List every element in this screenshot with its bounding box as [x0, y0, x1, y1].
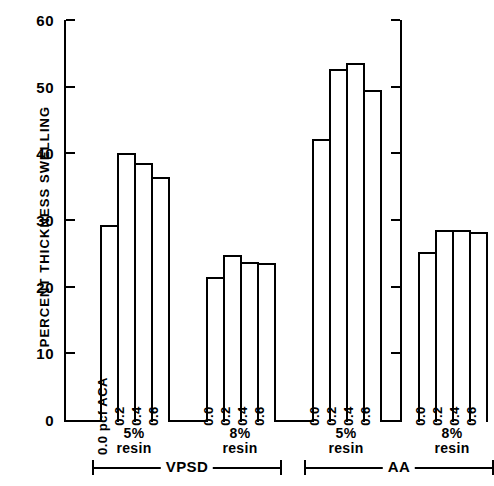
treatment-brace-vpsd: VPSD — [92, 460, 282, 475]
bar-value-label: 0.4 — [235, 406, 250, 426]
bar-value-label: 0.2 — [218, 406, 233, 426]
y-tick-label-30: 30 — [20, 212, 54, 229]
bar-value-label: 0.4 — [341, 406, 356, 426]
y-tick-label-40: 40 — [20, 145, 54, 162]
bar-value-label: 0.4 — [447, 406, 462, 426]
y-tick-mark-left-10 — [66, 352, 75, 354]
y-tick-mark-right-30 — [391, 219, 400, 221]
bar-aa-5pct-0.6: 0.6 — [363, 90, 382, 422]
y-tick-mark-left-20 — [66, 286, 75, 288]
group-label-resin-word: resin — [117, 441, 152, 456]
bar-value-label: 0.2 — [112, 406, 127, 426]
treatment-label: VPSD — [161, 459, 213, 475]
y-tick-mark-right-20 — [391, 286, 400, 288]
bar-value-label: 0.6 — [464, 406, 479, 426]
bar-value-label: 0.6 — [358, 406, 373, 426]
brace-cap-left — [92, 460, 94, 475]
brace-cap-right — [280, 460, 282, 475]
group-label-resin-pct: 5% — [117, 426, 152, 441]
group-label-aa-8pct: 8%resin — [435, 426, 470, 455]
y-tick-label-60: 60 — [20, 12, 54, 29]
group-label-aa-5pct: 5%resin — [329, 426, 364, 455]
y-axis-tick-labels: 0102030405060 — [14, 0, 54, 486]
bar-aa-8pct-0.6: 0.6 — [469, 232, 488, 422]
y-tick-mark-right-60 — [391, 19, 400, 21]
y-tick-mark-right-40 — [391, 152, 400, 154]
bar-value-label: 0.6 — [146, 406, 161, 426]
y-tick-mark-right-50 — [391, 86, 400, 88]
bar-value-label: 0.0 — [201, 406, 216, 426]
group-label-resin-word: resin — [223, 441, 258, 456]
right-axis-line — [400, 20, 402, 422]
brace-cap-left — [304, 460, 306, 475]
y-tick-label-20: 20 — [20, 278, 54, 295]
treatment-label: AA — [383, 459, 415, 475]
y-tick-mark-left-40 — [66, 152, 75, 154]
bar-value-label: 0.6 — [252, 406, 267, 426]
bar-vpsd-5pct-0.6: 0.6 — [151, 177, 170, 422]
y-tick-mark-right-10 — [391, 352, 400, 354]
y-tick-mark-left-30 — [66, 219, 75, 221]
group-label-resin-pct: 8% — [435, 426, 470, 441]
bar-value-label: 0.0 — [413, 406, 428, 426]
bar-vpsd-8pct-0.6: 0.6 — [257, 263, 276, 422]
bar-value-label: 0.0 — [307, 406, 322, 426]
bar-value-label: 0.2 — [430, 406, 445, 426]
group-label-vpsd-5pct: 5%resin — [117, 426, 152, 455]
bar-value-label: 0.0 pcf ACA — [95, 377, 110, 455]
y-tick-label-10: 10 — [20, 345, 54, 362]
y-axis-line — [64, 20, 66, 422]
group-label-resin-pct: 8% — [223, 426, 258, 441]
bar-value-label: 0.2 — [324, 406, 339, 426]
y-tick-label-50: 50 — [20, 78, 54, 95]
y-tick-label-0: 0 — [20, 412, 54, 429]
group-label-resin-word: resin — [329, 441, 364, 456]
treatment-brace-aa: AA — [304, 460, 494, 475]
group-label-resin-word: resin — [435, 441, 470, 456]
y-tick-mark-left-60 — [66, 19, 75, 21]
bar-value-label: 0.4 — [129, 406, 144, 426]
group-label-resin-pct: 5% — [329, 426, 364, 441]
group-label-vpsd-8pct: 8%resin — [223, 426, 258, 455]
y-tick-mark-left-50 — [66, 86, 75, 88]
